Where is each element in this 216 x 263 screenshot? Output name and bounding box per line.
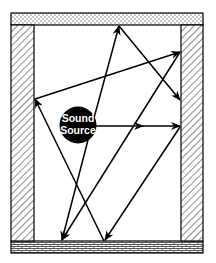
ray-right-wall-mid-to-floor <box>105 127 180 240</box>
sound-source: Sound Source <box>60 107 97 144</box>
ray-right-wall-to-floor <box>62 52 180 240</box>
ray-left-to-right-wall <box>35 52 180 99</box>
floor <box>11 241 203 253</box>
ray-ceiling-to-right-wall <box>119 26 180 100</box>
ray-source-down <box>62 140 88 240</box>
source-label-line2: Source <box>60 124 96 136</box>
ceiling <box>11 13 203 25</box>
source-label-line1: Sound <box>62 112 95 124</box>
room-diagram: Sound Source <box>0 0 216 263</box>
sound-rays <box>35 26 180 241</box>
right-wall <box>181 25 203 241</box>
left-wall <box>11 25 34 241</box>
